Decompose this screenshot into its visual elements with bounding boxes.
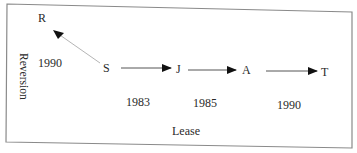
node-j: J [176,63,181,75]
year-j-to-a: 1985 [193,97,217,109]
arrow-s-to-r [57,33,100,63]
year-reversion: 1990 [38,57,62,69]
axis-label-lease: Lease [172,125,200,137]
year-s-to-j: 1983 [126,96,150,108]
node-t: T [321,66,328,78]
node-s: S [103,62,110,74]
year-a-to-t: 1990 [277,99,301,111]
node-a: A [242,64,251,76]
arrowhead-r-icon [53,30,64,39]
node-r: R [38,12,46,24]
axis-label-reversion: Reversion [18,53,30,100]
